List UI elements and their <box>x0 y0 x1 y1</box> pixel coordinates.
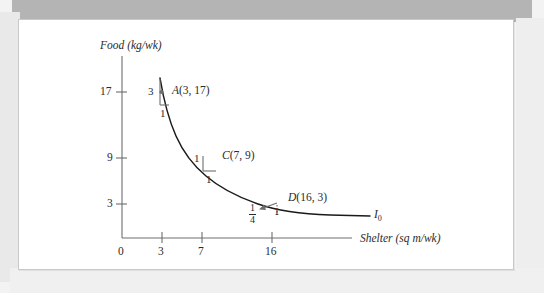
point-label-c: C(7, 9) <box>222 150 255 162</box>
y-axis-title: Food (kg/wk) <box>100 40 162 52</box>
curve-label-subscript: 0 <box>378 214 382 223</box>
slope-label-a-run: 1 <box>160 108 166 119</box>
origin-label: 0 <box>118 246 124 258</box>
curve-label-i0: I0 <box>374 209 382 223</box>
indifference-curve-path <box>160 78 370 216</box>
slope-d-denominator: 4 <box>249 215 256 226</box>
point-c-coords: (7, 9) <box>230 149 255 161</box>
point-a-coords: (3, 17) <box>179 84 210 96</box>
slope-label-d-fraction: 1 4 <box>249 203 256 225</box>
x-tick-label-7: 7 <box>198 246 204 258</box>
x-tick-label-3: 3 <box>158 246 164 258</box>
x-tick-label-16: 16 <box>265 246 277 258</box>
slope-label-a-rise: 3 <box>148 86 154 97</box>
y-tick-label-17: 17 <box>100 86 112 98</box>
y-tick-label-9: 9 <box>107 152 113 164</box>
point-label-d: D(16, 3) <box>288 192 327 204</box>
slope-label-c-rise: 1 <box>194 153 200 164</box>
y-tick-label-3: 3 <box>107 198 113 210</box>
slope-d-numerator: 1 <box>249 203 256 215</box>
point-label-a: A(3, 17) <box>172 85 210 97</box>
point-a-letter: A <box>172 84 179 96</box>
point-c-letter: C <box>222 149 230 161</box>
slope-label-d-run: 1 <box>274 206 280 217</box>
data-point-a <box>159 90 163 94</box>
point-d-coords: (16, 3) <box>296 191 327 203</box>
x-axis-title: Shelter (sq m/wk) <box>360 233 440 245</box>
slope-label-c-run: 1 <box>206 174 212 185</box>
